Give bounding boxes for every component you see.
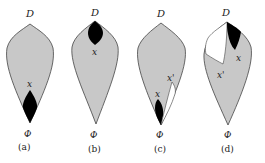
top-label-d: D [221, 7, 230, 18]
region-label-x-d: x [236, 53, 241, 63]
region-label-x-c: x [155, 89, 160, 99]
caption-b: (b) [88, 144, 101, 154]
diagram-canvas: D x Φ (a) D x Φ (b) D x x' Φ (c) D x x' … [0, 0, 265, 163]
bottom-label-b: Φ [90, 130, 97, 140]
caption-c: (c) [154, 144, 166, 154]
region-label-x-b: x [92, 47, 97, 57]
bottom-label-a: Φ [24, 129, 31, 139]
panel-b: D x Φ (b) [72, 7, 118, 154]
panel-c: D x x' Φ (c) [138, 8, 186, 154]
caption-a: (a) [18, 142, 30, 152]
region-label-x-prime-d: x' [217, 70, 225, 80]
region-label-x-prime-c: x' [167, 73, 175, 83]
region-label-x-a: x [27, 79, 32, 89]
top-label-c: D [156, 8, 165, 19]
caption-d: (d) [221, 144, 234, 154]
panel-d: D x x' Φ (d) [204, 7, 252, 154]
bottom-label-c: Φ [156, 130, 163, 140]
panel-a: D x Φ (a) [7, 8, 54, 152]
bottom-label-d: Φ [224, 130, 231, 140]
top-label-a: D [25, 8, 34, 19]
top-label-b: D [90, 7, 99, 18]
